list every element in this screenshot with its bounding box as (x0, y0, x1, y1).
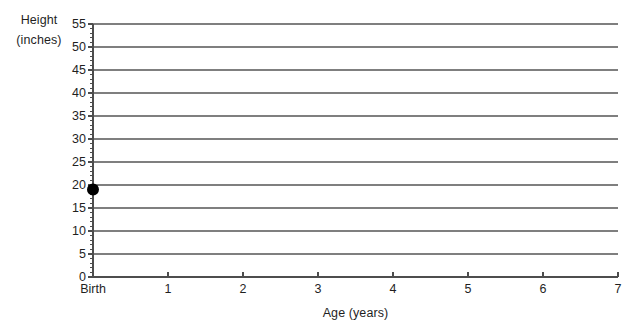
y-tick-label-wrap: 20 (52, 179, 86, 191)
height-vs-age-chart: Height (inches) 5550454035302520151050 B… (0, 0, 631, 329)
x-tick-label: 1 (165, 283, 172, 296)
y-tick-label: 10 (52, 225, 86, 237)
plot-canvas (0, 0, 631, 329)
y-tick-label-wrap: 40 (52, 87, 86, 99)
x-tick-label: 4 (390, 283, 397, 296)
x-tick-label: 5 (465, 283, 472, 296)
y-tick-label: 50 (52, 41, 86, 53)
y-tick-label: 5 (52, 248, 86, 260)
y-tick-label-wrap: 10 (52, 225, 86, 237)
y-tick-label: 55 (52, 18, 86, 30)
y-tick-label: 30 (52, 133, 86, 145)
y-tick-label-wrap: 30 (52, 133, 86, 145)
y-tick-label-wrap: 15 (52, 202, 86, 214)
y-tick-label-wrap: 50 (52, 41, 86, 53)
x-tick-label: 6 (540, 283, 547, 296)
x-tick-group (93, 272, 618, 278)
y-tick-label-wrap: 35 (52, 110, 86, 122)
y-tick-label-wrap: 55 (52, 18, 86, 30)
y-tick-label: 40 (52, 87, 86, 99)
y-tick-label-wrap: 45 (52, 64, 86, 76)
y-tick-label: 25 (52, 156, 86, 168)
x-tick-label: 7 (615, 283, 622, 296)
x-tick-label: 2 (240, 283, 247, 296)
axis-lines-group (93, 24, 618, 277)
x-tick-label: 3 (315, 283, 322, 296)
y-tick-label-wrap: 25 (52, 156, 86, 168)
data-point (87, 184, 99, 196)
y-tick-label-wrap: 5 (52, 248, 86, 260)
data-point-group (87, 184, 99, 196)
y-tick-label: 15 (52, 202, 86, 214)
y-tick-label: 20 (52, 179, 86, 191)
x-tick-label: Birth (80, 283, 106, 296)
y-major-tick-group (88, 24, 94, 277)
x-axis-title: Age (years) (0, 303, 631, 323)
gridline-group (93, 24, 618, 277)
y-tick-label: 35 (52, 110, 86, 122)
y-tick-label: 45 (52, 64, 86, 76)
